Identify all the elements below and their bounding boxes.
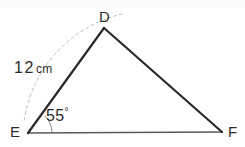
angle-label-e: 55°	[46, 107, 69, 124]
angle-value: 55	[46, 107, 65, 124]
side-length-value: 12	[14, 59, 35, 76]
vertex-label-e: E	[10, 124, 20, 139]
degree-symbol: °	[65, 106, 69, 117]
vertex-label-f: F	[228, 124, 237, 139]
side-length-unit: cm	[36, 62, 52, 76]
geometry-diagram-canvas: D E F 12cm 55°	[0, 0, 245, 147]
side-DF	[104, 28, 222, 132]
side-length-label: 12cm	[14, 60, 52, 76]
vertex-label-d: D	[99, 9, 110, 24]
side-EF	[28, 132, 222, 133]
